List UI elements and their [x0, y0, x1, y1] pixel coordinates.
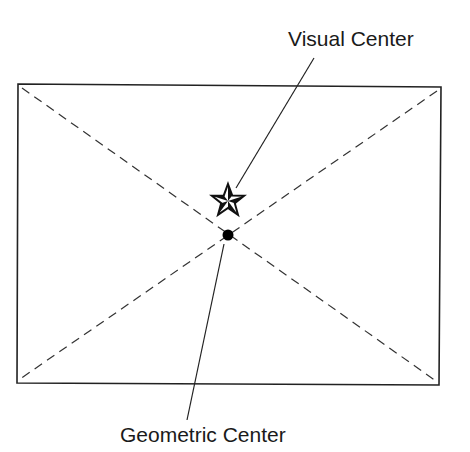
geometric-center-leader — [187, 244, 224, 420]
visual-center-leader — [236, 58, 314, 188]
geometric-center-label: Geometric Center — [120, 423, 286, 447]
center-diagram — [0, 0, 470, 452]
visual-center-label: Visual Center — [288, 27, 414, 51]
dot-icon — [223, 230, 234, 241]
star-icon — [212, 184, 244, 215]
